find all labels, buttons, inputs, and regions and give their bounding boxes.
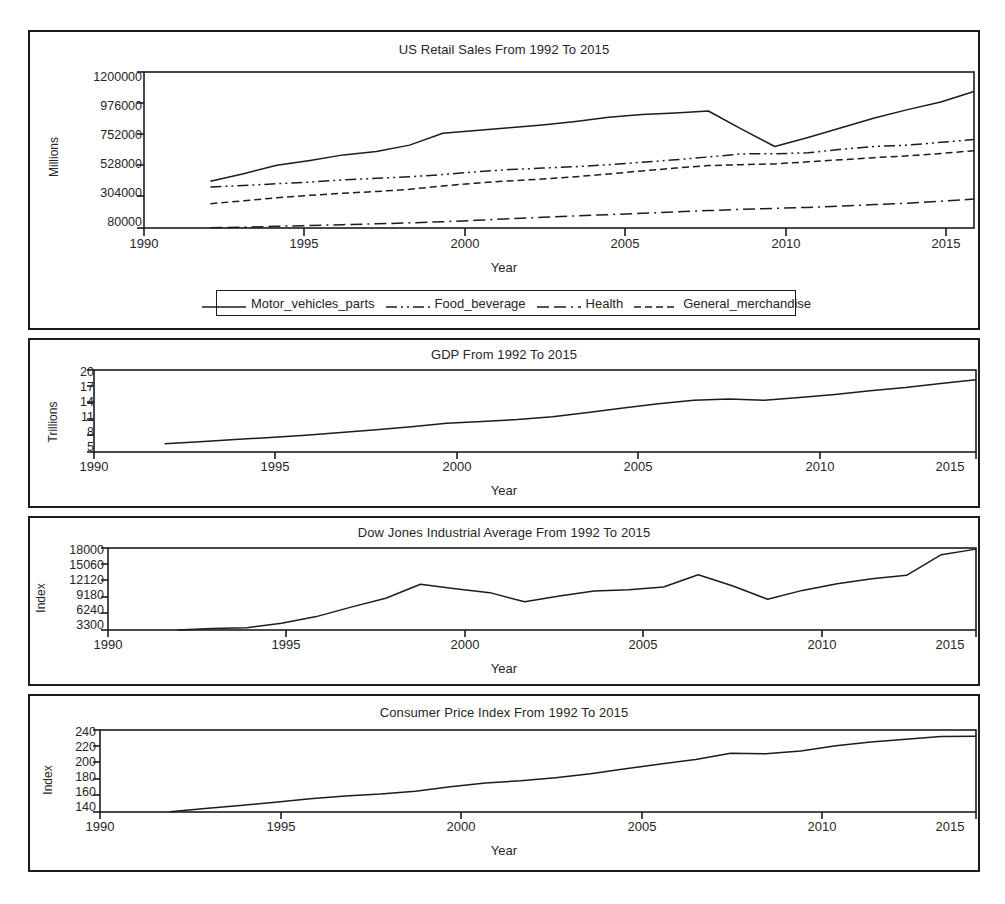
legend-label: General_merchandise xyxy=(683,296,811,311)
legend-entry-food-beverage[interactable]: Food_beverage xyxy=(385,296,526,311)
legend-label: Health xyxy=(586,296,624,311)
series-line-djia xyxy=(177,549,976,630)
legend-swatch-dashed-icon xyxy=(633,298,679,308)
legend-label: Food_beverage xyxy=(435,296,526,311)
legend-swatch-dashdotdot-icon xyxy=(385,298,431,308)
legend-swatch-solid-icon xyxy=(201,298,247,308)
series-line-gdp xyxy=(165,380,976,444)
series-lines-retail-sales xyxy=(210,92,974,228)
series-line-health xyxy=(210,199,974,228)
series-line-food-beverage xyxy=(210,140,974,187)
legend-entry-health[interactable]: Health xyxy=(536,296,624,311)
plot-area-retail-sales xyxy=(30,32,982,332)
plot-area-cpi xyxy=(30,696,982,874)
series-line-cpi xyxy=(170,736,976,812)
plot-area-gdp xyxy=(30,340,982,510)
legend-entry-motor-vehicles-parts[interactable]: Motor_vehicles_parts xyxy=(201,296,375,311)
plot-area-dow-jones xyxy=(30,518,982,688)
series-lines-cpi xyxy=(170,736,976,812)
panel-gdp: GDP From 1992 To 2015 Trillions 20 17 14… xyxy=(28,338,980,508)
series-line-motor-vehicles-parts xyxy=(210,92,974,182)
series-lines-dow-jones xyxy=(177,549,976,630)
panel-cpi: Consumer Price Index From 1992 To 2015 I… xyxy=(28,694,980,872)
legend-swatch-longdashdot-icon xyxy=(536,298,582,308)
series-lines-gdp xyxy=(165,380,976,444)
panel-retail-sales: US Retail Sales From 1992 To 2015 Millio… xyxy=(28,30,980,330)
panel-dow-jones: Dow Jones Industrial Average From 1992 T… xyxy=(28,516,980,686)
legend-entry-general-merchandise[interactable]: General_merchandise xyxy=(633,296,811,311)
legend-retail-sales: Motor_vehicles_parts Food_beverage Healt… xyxy=(216,290,796,316)
figure-canvas: US Retail Sales From 1992 To 2015 Millio… xyxy=(0,0,1005,904)
legend-label: Motor_vehicles_parts xyxy=(251,296,375,311)
